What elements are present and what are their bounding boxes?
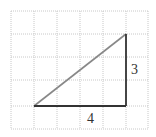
vertical-leg-label: 3 [131, 62, 138, 77]
triangle-grid-diagram: 3 4 [0, 0, 156, 137]
horizontal-leg-label: 4 [87, 111, 94, 126]
